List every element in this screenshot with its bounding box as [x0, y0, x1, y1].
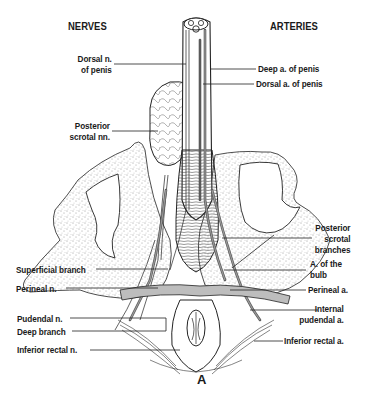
label-inferior-rectal-a: Inferior rectal a.	[284, 335, 344, 346]
label-dorsal-a-of-penis: Dorsal a. of penis	[256, 78, 323, 89]
label-superficial-branch: Superficial branch	[16, 264, 86, 275]
bulb-of-penis	[176, 150, 219, 272]
label-posterior-scrotal-branches: Posterior scrotal branches	[314, 222, 350, 255]
label-deep-branch: Deep branch	[17, 326, 66, 337]
nerves-heading: NERVES	[68, 20, 107, 32]
anatomical-figure: NERVES ARTERIES Dorsal n. of penis Poste…	[0, 0, 366, 398]
label-pudendal-n: Pudendal n.	[17, 313, 62, 324]
label-dorsal-n-of-penis: Dorsal n. of penis	[78, 53, 112, 75]
label-deep-a-of-penis: Deep a. of penis	[258, 63, 319, 74]
label-inferior-rectal-n: Inferior rectal n.	[17, 344, 77, 355]
label-posterior-scrotal-nn: Posterior scrotal nn.	[70, 120, 110, 142]
label-internal-pudendal-a: Internal pudendal a.	[300, 303, 344, 325]
panel-label: A	[197, 372, 206, 387]
label-perineal-n: Perineal n.	[16, 283, 56, 294]
label-perineal-a: Perineal a.	[308, 284, 348, 295]
arteries-heading: ARTERIES	[270, 20, 318, 32]
label-a-of-the-bulb: A. of the bulb	[310, 258, 342, 280]
